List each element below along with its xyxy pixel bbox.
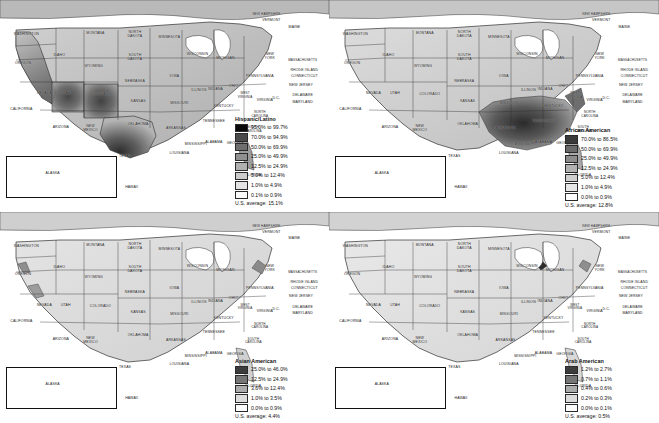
legend-class-label: 50.0% to 69.9% — [251, 145, 288, 150]
legend-row: 5.0% to 12.4% — [565, 174, 657, 183]
legend-row: 25.0% to 49.9% — [565, 155, 657, 164]
legend-swatch — [565, 366, 578, 375]
legend-row: 1.0% to 4.9% — [565, 183, 657, 192]
alaska-inset-box — [6, 156, 70, 198]
legend-swatch — [565, 385, 578, 394]
legend-arab-american: Arab American 1.2% to 2.7%0.7% to 1.1%0.… — [565, 359, 657, 419]
legend-title: Hispanic/Latino — [235, 117, 327, 122]
legend-class-list: 95.0% to 99.7%70.0% to 94.9%50.0% to 69.… — [235, 124, 327, 200]
legend-average: U.S. average: 0.5% — [565, 414, 657, 419]
legend-class-label: 0.4% to 0.6% — [581, 386, 612, 391]
legend-swatch — [565, 174, 578, 183]
legend-swatch — [235, 133, 248, 142]
legend-asian-american: Asian American 25.0% to 46.0%12.5% to 24… — [235, 359, 327, 419]
legend-swatch — [565, 404, 578, 413]
legend-swatch — [235, 394, 248, 403]
legend-class-label: 0.0% to 0.1% — [581, 406, 612, 411]
map-panel-arab-american: WASHINGTONOREGONCALIFORNIANEVADAIDAHOMON… — [329, 212, 659, 423]
alaska-inset-box — [6, 367, 70, 409]
legend-swatch — [565, 183, 578, 192]
legend-row: 70.0% to 86.5% — [565, 135, 657, 144]
alaska-inset-box — [335, 367, 399, 409]
legend-row: 95.0% to 99.7% — [235, 124, 327, 133]
legend-row: 1.0% to 4.9% — [235, 181, 327, 190]
legend-class-label: 12.5% to 24.9% — [251, 377, 288, 382]
legend-row: 1.2% to 2.7% — [565, 366, 657, 375]
map-panel-african-american: WASHINGTONOREGONCALIFORNIANEVADAIDAHOMON… — [329, 0, 659, 212]
legend-hispanic-latino: Hispanic/Latino 95.0% to 99.7%70.0% to 9… — [235, 117, 327, 206]
hawaii-inset-box — [68, 367, 117, 409]
legend-row: 3.6% to 12.4% — [235, 385, 327, 394]
legend-class-label: 25.0% to 49.9% — [581, 156, 618, 161]
legend-class-label: 5.0% to 12.4% — [251, 173, 285, 178]
legend-average: U.S. average: 4.4% — [235, 414, 327, 419]
legend-title: Arab American — [565, 359, 657, 364]
legend-row: 12.5% to 24.9% — [235, 375, 327, 384]
legend-title: African American — [565, 128, 657, 133]
map-grid: WASHINGTONOREGONCALIFORNIANEVADAIDAHOMON… — [0, 0, 659, 423]
legend-class-label: 5.0% to 12.4% — [581, 175, 615, 180]
legend-row: 0.1% to 0.9% — [235, 191, 327, 200]
legend-row: 50.0% to 69.9% — [565, 145, 657, 154]
legend-class-label: 50.0% to 69.9% — [581, 147, 618, 152]
legend-class-label: 12.5% to 24.9% — [251, 164, 288, 169]
legend-row: 0.4% to 0.6% — [565, 385, 657, 394]
legend-swatch — [235, 366, 248, 375]
legend-row: 1.0% to 3.5% — [235, 394, 327, 403]
legend-swatch — [565, 145, 578, 154]
legend-class-label: 95.0% to 99.7% — [251, 125, 288, 130]
legend-class-label: 1.0% to 3.5% — [251, 396, 282, 401]
legend-class-label: 0.1% to 0.9% — [251, 193, 282, 198]
hawaii-inset-box — [397, 156, 446, 198]
legend-class-label: 25.0% to 49.9% — [251, 154, 288, 159]
legend-row: 70.0% to 94.9% — [235, 133, 327, 142]
legend-swatch — [235, 162, 248, 171]
legend-row: 0.0% to 0.9% — [565, 193, 657, 202]
legend-swatch — [235, 404, 248, 413]
legend-class-label: 1.2% to 2.7% — [581, 367, 612, 372]
legend-swatch — [565, 394, 578, 403]
legend-swatch — [565, 375, 578, 384]
legend-row: 0.0% to 0.9% — [235, 404, 327, 413]
legend-class-label: 0.7% to 1.1% — [581, 377, 612, 382]
legend-class-list: 70.0% to 86.5%50.0% to 69.9%25.0% to 49.… — [565, 135, 657, 201]
legend-class-list: 1.2% to 2.7%0.7% to 1.1%0.4% to 0.6%0.2%… — [565, 366, 657, 413]
legend-class-label: 3.6% to 12.4% — [251, 386, 285, 391]
legend-class-list: 25.0% to 46.0%12.5% to 24.9%3.6% to 12.4… — [235, 366, 327, 413]
legend-class-label: 1.0% to 4.9% — [581, 185, 612, 190]
legend-swatch — [565, 155, 578, 164]
legend-swatch — [235, 153, 248, 162]
legend-swatch — [235, 385, 248, 394]
legend-swatch — [565, 135, 578, 144]
legend-row: 25.0% to 46.0% — [235, 366, 327, 375]
legend-swatch — [565, 193, 578, 202]
map-panel-hispanic-latino: WASHINGTONOREGONCALIFORNIANEVADAIDAHOMON… — [0, 0, 329, 212]
legend-average: U.S. average: 15.1% — [235, 201, 327, 206]
legend-title: Asian American — [235, 359, 327, 364]
legend-class-label: 1.0% to 4.9% — [251, 183, 282, 188]
legend-row: 0.2% to 0.3% — [565, 394, 657, 403]
legend-class-label: 0.0% to 0.9% — [581, 195, 612, 200]
legend-swatch — [235, 375, 248, 384]
legend-class-label: 12.5% to 24.9% — [581, 166, 618, 171]
legend-row: 0.0% to 0.1% — [565, 404, 657, 413]
legend-row: 12.5% to 24.9% — [235, 162, 327, 171]
hawaii-inset-box — [397, 367, 446, 409]
legend-class-label: 0.0% to 0.9% — [251, 406, 282, 411]
legend-class-label: 70.0% to 86.5% — [581, 137, 618, 142]
legend-swatch — [235, 181, 248, 190]
legend-swatch — [235, 172, 248, 181]
legend-class-label: 25.0% to 46.0% — [251, 367, 288, 372]
legend-row: 25.0% to 49.9% — [235, 153, 327, 162]
legend-row: 0.7% to 1.1% — [565, 375, 657, 384]
legend-swatch — [235, 143, 248, 152]
hawaii-inset-box — [68, 156, 117, 198]
map-panel-asian-american: WASHINGTONOREGONCALIFORNIANEVADAIDAHOMON… — [0, 212, 329, 423]
legend-average: U.S. average: 12.8% — [565, 203, 657, 208]
legend-class-label: 0.2% to 0.3% — [581, 396, 612, 401]
legend-class-label: 70.0% to 94.9% — [251, 135, 288, 140]
legend-row: 12.5% to 24.9% — [565, 164, 657, 173]
legend-swatch — [565, 164, 578, 173]
legend-row: 50.0% to 69.9% — [235, 143, 327, 152]
legend-swatch — [235, 124, 248, 133]
